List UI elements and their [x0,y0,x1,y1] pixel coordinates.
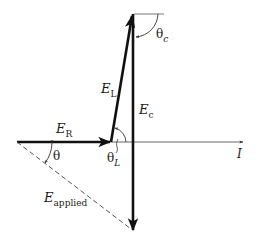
label-e-applied-main: E [44,190,54,205]
label-e-applied-sub: applied [54,198,88,208]
label-theta-l-sub: L [114,158,120,168]
label-e-applied: Eapplied [44,191,87,204]
theta-c-arc [136,14,158,37]
label-e-r: ER [56,122,72,135]
label-e-l-sub: L [111,89,117,99]
label-theta-l: θL [107,152,120,164]
label-e-c-sub: c [149,110,154,120]
label-e-r-sub: R [66,129,73,139]
label-i: I [237,148,242,160]
theta-arc [45,143,52,163]
label-e-l: EL [101,82,116,95]
label-theta: θ [53,150,60,162]
vector-e-l [111,16,132,142]
label-e-c: Ec [139,103,154,116]
phasor-diagram-graphic [0,0,258,248]
label-e-l-main: E [101,81,111,96]
label-e-c-main: E [139,102,149,117]
phasor-diagram: ER EL Ec Eapplied I θ θL θc [0,0,258,248]
label-theta-c-sub: c [163,34,168,44]
label-theta-c: θc [156,28,168,40]
theta-l-arc [115,128,126,142]
theta-l-leader [116,139,118,153]
label-e-r-main: E [56,121,66,136]
